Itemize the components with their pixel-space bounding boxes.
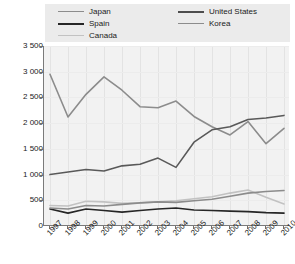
- series-line-japan: [50, 74, 284, 143]
- y-axis-tick-label: 1 000: [3, 170, 43, 179]
- series-line-spain: [50, 208, 284, 213]
- legend-label: Japan: [89, 6, 111, 17]
- legend-item-united-states[interactable]: United States: [178, 6, 257, 17]
- legend-item-spain[interactable]: Spain: [58, 18, 117, 29]
- legend-line-swatch: [58, 11, 84, 12]
- y-axis-tick-label: 500: [3, 195, 43, 204]
- series-line-korea: [50, 191, 284, 210]
- legend-label: United States: [209, 6, 257, 17]
- legend-label: Spain: [89, 18, 109, 29]
- y-axis: 05001 0001 5002 0002 5003 0003 500: [0, 46, 43, 227]
- series-lines: [44, 46, 290, 226]
- x-axis: 1997199819992000200120022003200420052006…: [43, 228, 293, 264]
- plot-area: [43, 46, 289, 226]
- y-axis-tick-label: 1 500: [3, 144, 43, 153]
- legend-item-japan[interactable]: Japan: [58, 6, 117, 17]
- y-axis-tick-label: 3 500: [3, 41, 43, 50]
- y-axis-tick-label: 3 000: [3, 67, 43, 76]
- legend-column-1: JapanSpainCanada: [58, 6, 117, 42]
- legend-label: Korea: [209, 18, 230, 29]
- legend-line-swatch: [178, 23, 204, 24]
- legend-column-2: United StatesKorea: [178, 6, 257, 30]
- legend-line-swatch: [58, 23, 84, 25]
- y-axis-tick-label: 0: [3, 221, 43, 230]
- line-chart-figure: JapanSpainCanadaUnited StatesKorea 05001…: [0, 0, 295, 264]
- legend-line-swatch: [178, 11, 204, 13]
- y-axis-tick-label: 2 500: [3, 92, 43, 101]
- legend-item-canada[interactable]: Canada: [58, 30, 117, 41]
- legend-line-swatch: [58, 35, 84, 36]
- chart-legend: JapanSpainCanadaUnited StatesKorea: [45, 4, 290, 42]
- y-axis-tick-label: 2 000: [3, 118, 43, 127]
- legend-item-korea[interactable]: Korea: [178, 18, 257, 29]
- series-line-united-states: [50, 115, 284, 174]
- legend-label: Canada: [89, 30, 117, 41]
